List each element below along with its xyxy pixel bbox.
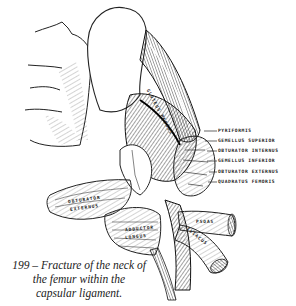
inline-label-psoas: PSOAS <box>196 219 214 224</box>
caption-line-3: capsular ligament. <box>2 286 156 300</box>
label-obturator-externus: OBTURATOR EXTERNUS <box>218 169 279 174</box>
femoral-head <box>174 136 215 196</box>
caption-line-2: the femur within the <box>2 272 156 286</box>
caption-line-1: 199 – Fracture of the neck of <box>2 258 156 272</box>
figure-caption: 199 – Fracture of the neck of the femur … <box>2 258 156 300</box>
label-pyriformis: PYRIFORMIS <box>218 128 252 133</box>
label-obturator-internus: OBTURATOR INTERNUS <box>218 148 279 153</box>
label-quadratus-femoris: QUADRATUS FEMORIS <box>218 179 275 184</box>
label-gemellus-superior: GEMELLUS SUPERIOR <box>218 138 275 143</box>
label-gemellus-inferior: GEMELLUS INFERIOR <box>218 158 275 163</box>
